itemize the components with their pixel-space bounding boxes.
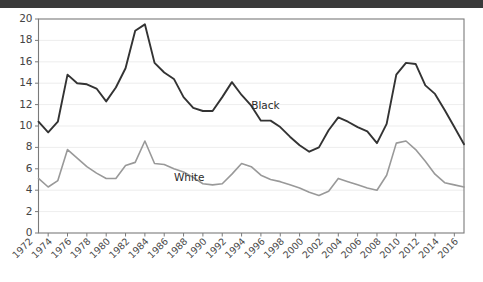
x-tick-label: 1988: [165, 236, 190, 261]
x-tick-label: 1984: [126, 236, 151, 261]
x-tick-label: 1998: [261, 236, 286, 261]
x-tick-label: 1986: [145, 236, 170, 261]
x-tick-label: 2014: [416, 236, 441, 261]
y-tick-label: 20: [19, 12, 32, 24]
chart-figure: 02468101214161820 1972197419761978198019…: [0, 0, 483, 282]
y-tick-label: 6: [26, 162, 33, 174]
x-tick-label: 2004: [319, 236, 344, 261]
y-tick-label: 10: [19, 119, 32, 131]
y-axis-ticks-group: 02468101214161820: [19, 12, 38, 238]
y-tick-label: 18: [19, 33, 32, 45]
series-line-black: [39, 24, 465, 151]
y-tick-label: 4: [26, 183, 33, 195]
x-tick-label: 1994: [223, 236, 248, 261]
series-label-black: Black: [251, 99, 280, 111]
series-labels-group: BlackWhite: [174, 99, 281, 183]
x-tick-label: 1990: [184, 236, 209, 261]
x-tick-label: 1980: [87, 236, 112, 261]
x-tick-label: 1972: [10, 236, 35, 261]
series-label-white: White: [174, 171, 205, 183]
gridlines-group: [39, 40, 465, 211]
x-tick-label: 2008: [358, 236, 383, 261]
x-tick-label: 2000: [281, 236, 306, 261]
series-line-white: [39, 141, 465, 196]
x-tick-label: 1978: [68, 236, 93, 261]
y-tick-label: 2: [26, 205, 33, 217]
x-tick-label: 1982: [107, 236, 132, 261]
x-tick-label: 2016: [435, 236, 460, 261]
x-tick-label: 2010: [377, 236, 402, 261]
x-tick-label: 2012: [397, 236, 422, 261]
x-axis-ticks-group: 1972197419761978198019821984198619881990…: [10, 233, 460, 261]
y-tick-label: 12: [19, 98, 32, 110]
y-tick-label: 16: [19, 55, 33, 67]
x-tick-label: 1992: [203, 236, 228, 261]
x-tick-label: 1976: [49, 236, 74, 261]
x-tick-label: 2002: [300, 236, 325, 261]
line-chart: 02468101214161820 1972197419761978198019…: [0, 0, 483, 282]
y-tick-label: 8: [26, 140, 33, 152]
y-tick-label: 14: [19, 76, 33, 88]
x-tick-label: 1996: [242, 236, 267, 261]
x-tick-label: 2006: [339, 236, 364, 261]
x-tick-label: 1974: [29, 236, 54, 261]
